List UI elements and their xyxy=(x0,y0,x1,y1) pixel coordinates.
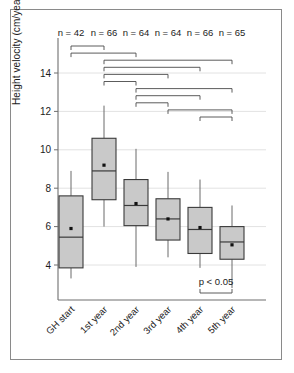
mean-marker xyxy=(230,243,233,246)
y-tick-label: 6 xyxy=(45,221,51,232)
significance-bracket xyxy=(104,60,232,64)
box xyxy=(59,196,83,268)
box xyxy=(188,207,212,253)
significance-bracket xyxy=(71,53,136,57)
sample-size-label: n = 65 xyxy=(219,27,246,38)
mean-marker xyxy=(102,164,105,167)
mean-marker xyxy=(69,227,72,230)
significance-bracket xyxy=(104,74,168,78)
box-plot-3 xyxy=(124,149,148,267)
mean-marker xyxy=(166,217,169,220)
y-tick-label: 4 xyxy=(45,260,51,271)
significance-bracket xyxy=(136,103,168,107)
sample-size-label: n = 66 xyxy=(91,27,118,38)
p-value-label: p < 0.05 xyxy=(199,276,234,287)
mean-marker xyxy=(134,202,137,205)
y-tick-label: 8 xyxy=(45,183,51,194)
x-tick-label-5: 4th year xyxy=(173,304,205,336)
box xyxy=(220,227,244,260)
significance-bracket xyxy=(104,67,200,71)
box-plot-4 xyxy=(156,172,180,257)
box-plot-2 xyxy=(92,106,116,227)
significance-bracket xyxy=(104,82,136,86)
mean-marker xyxy=(198,226,201,229)
sample-size-label: n = 66 xyxy=(187,27,214,38)
significance-bracket xyxy=(136,96,200,100)
y-tick-label: 12 xyxy=(40,106,52,117)
box-plot-1 xyxy=(59,171,83,279)
x-tick-label-6: 5th year xyxy=(205,304,237,336)
y-tick-label: 10 xyxy=(40,144,52,155)
significance-bracket xyxy=(71,46,104,50)
x-tick-label-2: 1st year xyxy=(78,304,110,336)
significance-bracket xyxy=(200,117,232,121)
p-value-bracket xyxy=(200,289,232,293)
sample-size-label: n = 64 xyxy=(155,27,182,38)
box-plot-5 xyxy=(188,180,212,268)
boxplot-chart: 468101214n = 42n = 66n = 64n = 64n = 66n… xyxy=(0,0,294,373)
x-tick-label-1: GH start xyxy=(44,303,77,336)
x-tick-label-4: 3rd year xyxy=(141,304,173,336)
box xyxy=(92,138,116,199)
x-tick-label-3: 2nd year xyxy=(107,304,141,338)
sample-size-label: n = 64 xyxy=(123,27,150,38)
y-tick-label: 14 xyxy=(40,68,52,79)
significance-bracket xyxy=(136,89,232,93)
sample-size-label: n = 42 xyxy=(58,27,85,38)
